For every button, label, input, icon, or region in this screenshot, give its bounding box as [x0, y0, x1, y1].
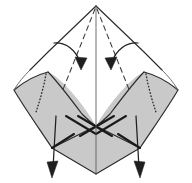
origami-figure-svg: Origami fold step diagram Kite-shaped fo…	[0, 0, 192, 183]
origami-diagram: Origami fold step diagram Kite-shaped fo…	[0, 0, 192, 183]
